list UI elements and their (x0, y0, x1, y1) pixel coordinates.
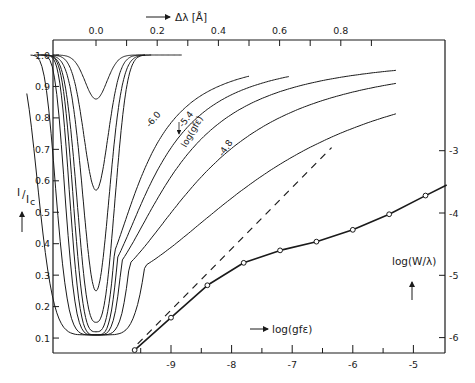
chart-figure: 0.00.20.40.60.8 Δλ [Å] 0.10.20.30.40.50.… (0, 0, 475, 383)
profile-curve (34, 55, 396, 335)
left-axis-tick-label: 0.1 (35, 333, 50, 344)
right-axis-title: log(W/λ) (392, 255, 436, 300)
left-axis-tick-label: 0.5 (35, 207, 50, 218)
left-axis-title-i: I (17, 186, 20, 198)
data-point (423, 193, 428, 198)
data-point (314, 239, 319, 244)
profile-curve (56, 55, 145, 99)
curve-of-growth (132, 148, 446, 353)
left-axis-title-subscript: c (30, 196, 35, 207)
top-axis-title-text: Δλ [Å] (175, 11, 207, 23)
profile-curve (42, 55, 250, 332)
bottom-axis-title-text: log(gfε) (272, 323, 312, 335)
left-axis-tick-label: 0.7 (35, 144, 50, 155)
right-axis-tick-label: -6 (449, 332, 458, 343)
left-axis-title: I / I c (17, 186, 35, 232)
profile-curve (53, 55, 146, 190)
data-point (387, 212, 392, 217)
right-y-axis: -6-5-4-3 (439, 145, 458, 343)
bottom-axis-tick-label: -5 (409, 359, 418, 370)
line-profiles (27, 55, 396, 335)
profile-labels: -6.0 -5.4 log(gfε) -4.8 (144, 109, 235, 158)
top-axis-title: Δλ [Å] (146, 11, 207, 23)
bottom-axis-tick-label: -8 (227, 359, 236, 370)
top-axis-tick-label: 0.6 (272, 25, 287, 36)
data-point (132, 348, 137, 353)
left-axis-title-i2: I (26, 193, 29, 205)
profile-curve (45, 55, 182, 322)
top-axis-tick-label: 0.2 (150, 25, 165, 36)
profile-curve (38, 55, 289, 335)
left-axis-tick-label: 0.8 (35, 112, 50, 123)
data-point (350, 227, 355, 232)
top-axis-tick-label: 0.8 (333, 25, 348, 36)
left-axis-tick-label: 0.4 (35, 238, 50, 249)
data-point (205, 283, 210, 288)
top-x-axis: 0.00.20.40.60.8 (88, 25, 371, 46)
left-axis-tick-label: 0.2 (35, 301, 50, 312)
bottom-axis-tick-label: -9 (166, 359, 175, 370)
data-point (169, 315, 174, 320)
left-axis-tick-label: 0.9 (35, 81, 50, 92)
bottom-axis-tick-label: -7 (287, 359, 296, 370)
data-point (278, 248, 283, 253)
right-axis-tick-label: -3 (449, 145, 458, 156)
top-axis-tick-label: 0.0 (88, 25, 103, 36)
label-minus-6-0: -6.0 (144, 109, 163, 129)
right-axis-title-text: log(W/λ) (392, 255, 436, 267)
bottom-axis-title: log(gfε) (250, 323, 312, 335)
bottom-x-axis: -9-8-7-6-5 (141, 345, 418, 370)
data-point (241, 260, 246, 265)
profile-curve (31, 55, 396, 335)
right-axis-tick-label: -4 (449, 208, 458, 219)
bottom-axis-tick-label: -6 (348, 359, 357, 370)
right-axis-tick-label: -5 (449, 270, 458, 281)
top-axis-tick-label: 0.4 (211, 25, 226, 36)
profile-curve (49, 55, 151, 291)
